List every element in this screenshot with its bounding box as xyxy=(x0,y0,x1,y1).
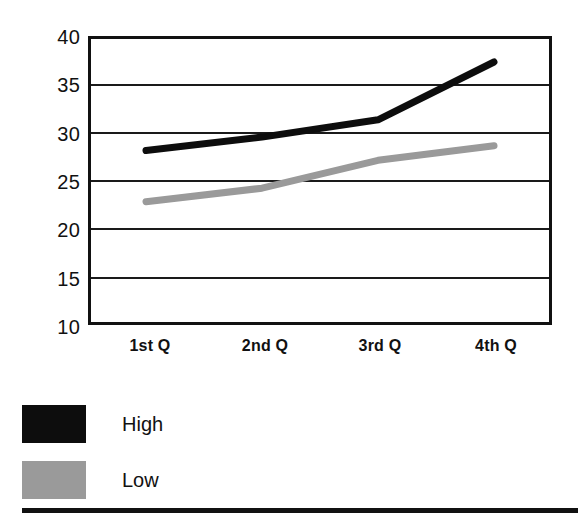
y-tick-label: 20 xyxy=(20,220,80,240)
chart-legend: High Low xyxy=(22,396,163,508)
gridline-30 xyxy=(91,132,549,134)
x-tick-label-q3: 3rd Q xyxy=(320,337,440,355)
legend-swatch-high-icon xyxy=(22,405,86,443)
legend-label-low: Low xyxy=(122,470,159,490)
legend-label-high: High xyxy=(122,414,163,434)
line-chart-figure: 40 35 30 25 20 15 10 1st Q 2nd Q 3rd Q 4… xyxy=(0,0,586,526)
gridline-35 xyxy=(91,84,549,86)
y-tick-label: 35 xyxy=(20,75,80,95)
plot-area xyxy=(88,36,552,325)
legend-swatch-low-icon xyxy=(22,461,86,499)
y-tick-label: 10 xyxy=(20,317,80,337)
gridline-20 xyxy=(91,228,549,230)
y-tick-label: 25 xyxy=(20,172,80,192)
legend-item-high: High xyxy=(22,396,163,452)
x-tick-label-q4: 4th Q xyxy=(436,337,556,355)
y-tick-label: 15 xyxy=(20,269,80,289)
x-tick-label-q1: 1st Q xyxy=(90,337,210,355)
legend-item-low: Low xyxy=(22,452,163,508)
y-tick-label: 30 xyxy=(20,124,80,144)
gridline-25 xyxy=(91,180,549,182)
bottom-divider xyxy=(22,508,578,513)
y-tick-label: 40 xyxy=(20,27,80,47)
x-tick-label-q2: 2nd Q xyxy=(205,337,325,355)
gridline-15 xyxy=(91,277,549,279)
